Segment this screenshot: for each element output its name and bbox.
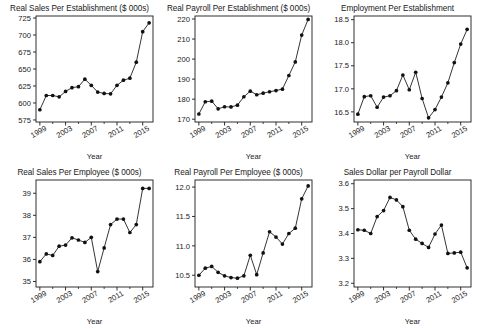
data-point <box>255 273 259 277</box>
data-point <box>134 223 138 227</box>
x-tick-label: 2011 <box>106 124 125 140</box>
data-point <box>356 112 360 116</box>
y-tick-label: 200 <box>177 55 190 64</box>
y-tick-label: 3.5 <box>338 204 349 213</box>
data-point <box>64 243 68 247</box>
x-tick-label: 2011 <box>424 289 443 305</box>
data-point <box>57 244 61 248</box>
x-tick-label: 2003 <box>373 289 392 305</box>
y-tick-label: 36 <box>23 255 31 264</box>
data-point <box>261 91 265 95</box>
data-point <box>210 265 214 269</box>
data-point <box>115 83 119 87</box>
data-point <box>440 223 444 227</box>
data-point <box>300 33 304 37</box>
y-tick-label: 17.5 <box>334 61 349 70</box>
x-tick-label: 2011 <box>265 289 284 305</box>
x-tick-label: 1999 <box>29 289 48 305</box>
y-tick-label: 210 <box>177 35 190 44</box>
multi-panel-figure: Real Sales Per Establishment ($ 000s) 57… <box>0 0 477 329</box>
y-tick-label: 18.5 <box>334 15 349 24</box>
data-point <box>89 236 93 240</box>
x-tick-label: 2011 <box>265 124 284 140</box>
x-tick-label: 2007 <box>80 289 99 305</box>
chart-canvas-1: 17018019020021022019992003200720112015Ye… <box>159 0 318 164</box>
x-tick-label: 2015 <box>132 289 151 305</box>
panel-real-sales-per-employee: Real Sales Per Employee ($ 000s) 3536373… <box>0 164 159 329</box>
x-axis-label: Year <box>405 317 421 326</box>
chart-canvas-5: 3.23.33.43.53.619992003200720112015Year <box>318 164 477 329</box>
x-axis-label: Year <box>405 152 421 161</box>
data-point <box>64 90 68 94</box>
data-point <box>248 253 252 257</box>
data-point <box>216 270 220 274</box>
data-point <box>369 94 373 98</box>
chart-canvas-3: 353637383919992003200720112015Year <box>0 164 159 329</box>
data-point <box>427 246 431 250</box>
y-tick-label: 10.5 <box>175 271 190 280</box>
y-tick-label: 220 <box>177 15 190 24</box>
y-tick-label: 11.5 <box>176 212 190 221</box>
data-point <box>109 92 113 96</box>
data-point <box>44 252 48 256</box>
data-point <box>465 28 469 32</box>
x-tick-label: 2015 <box>291 289 310 305</box>
data-point <box>362 228 366 232</box>
series-line <box>40 23 149 110</box>
data-point <box>236 276 240 280</box>
data-point <box>70 236 74 240</box>
data-point <box>395 89 399 93</box>
y-tick-label: 575 <box>18 116 31 125</box>
y-tick-label: 650 <box>18 65 31 74</box>
data-point <box>147 21 151 25</box>
data-point <box>414 237 418 241</box>
y-tick-label: 3.6 <box>338 179 349 188</box>
x-tick-label: 2007 <box>239 289 258 305</box>
data-point <box>401 205 405 209</box>
data-point <box>446 252 450 256</box>
data-point <box>261 251 265 255</box>
data-point <box>141 30 145 34</box>
data-point <box>274 89 278 93</box>
data-point <box>128 231 132 235</box>
data-point <box>287 74 291 78</box>
x-tick-label: 2015 <box>291 124 310 140</box>
data-point <box>96 270 100 274</box>
y-tick-label: 18.0 <box>334 38 349 47</box>
x-tick-label: 1999 <box>188 124 207 140</box>
y-tick-label: 38 <box>23 211 31 220</box>
data-point <box>452 61 456 65</box>
plot-frame <box>195 180 312 287</box>
y-tick-label: 170 <box>177 115 190 124</box>
y-tick-label: 17.0 <box>334 85 349 94</box>
data-point <box>70 86 74 90</box>
y-tick-label: 11.0 <box>176 242 190 251</box>
data-point <box>446 81 450 85</box>
data-point <box>122 78 126 82</box>
data-point <box>369 232 373 236</box>
data-point <box>395 198 399 202</box>
data-point <box>452 251 456 255</box>
y-tick-label: 3.2 <box>338 279 349 288</box>
data-point <box>414 70 418 74</box>
plot-frame <box>36 16 153 122</box>
data-point <box>268 230 272 234</box>
y-tick-label: 725 <box>18 14 31 23</box>
chart-canvas-2: 16.517.017.518.018.519992003200720112015… <box>318 0 477 164</box>
data-point <box>382 95 386 99</box>
x-axis-label: Year <box>246 317 262 326</box>
data-point <box>229 105 233 109</box>
data-point <box>375 105 379 109</box>
data-point <box>216 107 220 111</box>
data-point <box>306 184 310 188</box>
plot-frame <box>195 16 312 122</box>
data-point <box>459 42 463 46</box>
chart-canvas-0: 5756006256506757007251999200320072011201… <box>0 0 159 164</box>
data-point <box>388 94 392 98</box>
x-tick-label: 2011 <box>106 289 125 305</box>
x-axis-label: Year <box>87 317 103 326</box>
y-tick-label: 600 <box>18 99 31 108</box>
data-point <box>427 116 431 120</box>
y-tick-label: 3.4 <box>338 229 349 238</box>
x-tick-label: 2003 <box>373 124 392 140</box>
